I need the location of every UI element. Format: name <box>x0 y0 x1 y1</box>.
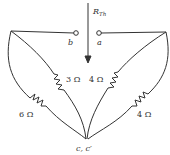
wire-outer-left <box>8 31 30 98</box>
terminal-c-label: c, c′ <box>76 144 92 153</box>
resistor-6ohm <box>30 94 46 106</box>
wire-right-top <box>101 32 166 33</box>
rth-arrow-head <box>85 56 91 63</box>
terminal-b <box>74 31 79 36</box>
resistor-4ohm-outer-label: 4 Ω <box>137 110 152 119</box>
rth-label: RTh <box>92 7 107 17</box>
terminal-a <box>97 31 102 36</box>
resistor-4ohm-inner <box>108 72 118 88</box>
wire-left-top <box>11 31 74 33</box>
wire-outer-right <box>148 32 168 94</box>
resistor-4ohm-inner-label: 4 Ω <box>89 75 104 84</box>
wire-6ohm-to-c <box>46 106 86 139</box>
resistor-3ohm-label: 3 Ω <box>66 75 81 84</box>
resistor-4ohm-outer <box>132 92 148 106</box>
terminal-a-label: a <box>97 38 102 47</box>
wire-4ohm-inner-to-c <box>87 88 108 139</box>
circuit-diagram: RTh b a 3 Ω 4 Ω 6 Ω 4 Ω c, c′ <box>0 0 170 155</box>
wire-inner-right <box>118 32 166 72</box>
resistor-3ohm <box>54 74 64 90</box>
wire-inner-left <box>11 31 54 74</box>
wire-3ohm-to-c <box>64 90 86 139</box>
resistor-6ohm-label: 6 Ω <box>19 110 34 119</box>
terminal-b-label: b <box>68 38 73 47</box>
